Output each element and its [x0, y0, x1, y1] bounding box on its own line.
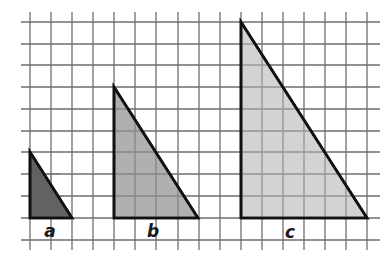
labels: a b c [44, 221, 295, 242]
triangle-grid-diagram: a b c [0, 0, 390, 257]
triangle-b-label: b [147, 221, 159, 241]
triangle-a-label: a [44, 221, 55, 241]
triangle-c-label: c [285, 222, 295, 242]
